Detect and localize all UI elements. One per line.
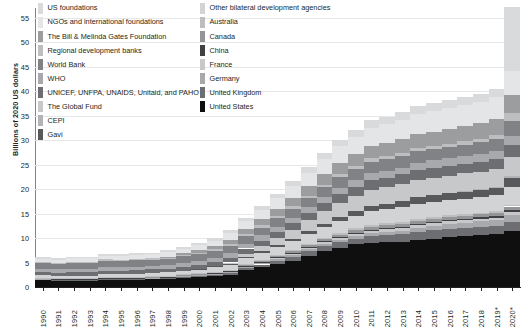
legend-label: WHO xyxy=(48,75,66,82)
chart-segment xyxy=(98,271,114,274)
legend-item[interactable]: CEPI xyxy=(38,114,188,128)
legend-item[interactable]: NGOs and international foundations xyxy=(38,15,188,29)
x-axis-tick-label: 1994 xyxy=(101,310,110,327)
chart-segment xyxy=(191,275,207,276)
chart-segment xyxy=(113,279,129,280)
chart-column[interactable] xyxy=(473,8,489,287)
x-axis-tick-mark xyxy=(356,287,357,291)
legend-item[interactable]: France xyxy=(200,57,400,71)
x-axis-tick-mark xyxy=(497,287,498,291)
chart-segment xyxy=(473,219,489,221)
chart-column[interactable] xyxy=(426,8,442,287)
chart-segment xyxy=(332,140,348,146)
y-axis-title: Billions of 2020 US dollars xyxy=(11,40,20,180)
chart-segment xyxy=(285,230,301,239)
chart-segment xyxy=(379,143,395,156)
chart-segment xyxy=(285,181,301,186)
legend-item[interactable]: Gavi xyxy=(38,128,188,142)
legend-item[interactable]: Canada xyxy=(200,29,400,43)
chart-segment xyxy=(129,279,145,280)
chart-segment xyxy=(285,255,301,257)
legend-item[interactable]: UNICEF, UNFPA, UNAIDS, Unitaid, and PAHO xyxy=(38,86,188,100)
chart-segment xyxy=(364,190,380,207)
chart-segment xyxy=(410,197,426,203)
chart-segment xyxy=(207,262,223,266)
chart-column[interactable] xyxy=(489,8,505,287)
chart-segment xyxy=(395,222,411,224)
x-axis-tick-label: 1990 xyxy=(39,310,48,327)
legend-item[interactable]: United Kingdom xyxy=(200,86,400,100)
chart-segment xyxy=(254,206,270,210)
chart-segment xyxy=(238,266,254,267)
legend-item[interactable]: The Global Fund xyxy=(38,100,188,114)
chart-segment xyxy=(223,263,239,264)
legend-item[interactable]: Regional development banks xyxy=(38,43,188,57)
chart-segment xyxy=(82,263,98,269)
chart-segment xyxy=(301,234,317,244)
legend-item[interactable]: Australia xyxy=(200,15,400,29)
legend-swatch-icon xyxy=(200,101,205,112)
y-axis-tick-label: 30 xyxy=(2,136,29,145)
chart-column[interactable] xyxy=(442,8,458,287)
chart-segment xyxy=(348,130,364,137)
chart-segment xyxy=(473,102,489,123)
legend-item[interactable]: Other bilateral development agencies xyxy=(200,1,400,15)
chart-segment xyxy=(364,162,380,174)
chart-segment xyxy=(410,228,426,232)
chart-segment xyxy=(317,224,333,227)
x-axis-tick-mark xyxy=(121,287,122,291)
chart-segment xyxy=(348,239,364,245)
chart-segment xyxy=(176,277,192,278)
chart-segment xyxy=(457,97,473,105)
chart-segment xyxy=(285,209,301,218)
legend-item[interactable]: China xyxy=(200,43,400,57)
legend-swatch-icon xyxy=(200,31,205,42)
chart-segment xyxy=(489,169,505,187)
x-axis-tick-mark xyxy=(403,287,404,291)
legend-swatch-icon xyxy=(38,45,43,56)
chart-segment xyxy=(176,275,192,276)
legend-item[interactable]: Germany xyxy=(200,71,400,85)
chart-segment xyxy=(301,198,317,207)
chart-segment xyxy=(285,253,301,255)
legend-item[interactable]: US foundations xyxy=(38,1,188,15)
y-axis-tick-label: 50 xyxy=(2,38,29,47)
x-axis-tick-label: 1992 xyxy=(70,310,79,327)
x-axis-tick-label: 2018 xyxy=(477,310,486,327)
x-axis-tick-label: 2009 xyxy=(336,310,345,327)
chart-segment xyxy=(489,211,505,213)
legend-item[interactable]: United States xyxy=(200,100,400,114)
chart-segment xyxy=(426,217,442,219)
chart-segment xyxy=(473,197,489,213)
chart-segment xyxy=(285,257,301,261)
chart-segment xyxy=(129,270,145,273)
chart-segment xyxy=(270,198,286,209)
chart-column[interactable] xyxy=(410,8,426,287)
chart-column[interactable] xyxy=(457,8,473,287)
chart-segment xyxy=(301,186,317,195)
legend-label: Germany xyxy=(210,75,240,82)
chart-column[interactable] xyxy=(504,8,520,287)
chart-segment xyxy=(238,236,254,243)
chart-segment xyxy=(223,230,239,233)
chart-segment xyxy=(317,159,333,174)
chart-segment xyxy=(317,239,333,241)
legend-swatch-icon xyxy=(38,87,43,98)
legend-item[interactable]: World Bank xyxy=(38,57,188,71)
chart-segment xyxy=(113,271,129,274)
chart-segment xyxy=(160,277,176,278)
x-axis-tick-label: 2010 xyxy=(352,310,361,327)
chart-segment xyxy=(504,207,520,210)
legend-item[interactable]: The Bill & Melinda Gates Foundation xyxy=(38,29,188,43)
chart-segment xyxy=(129,259,145,260)
chart-segment xyxy=(145,273,161,276)
chart-segment xyxy=(270,264,286,287)
x-axis-tick-mark xyxy=(418,287,419,291)
x-axis-tick-mark xyxy=(512,287,513,291)
chart-segment xyxy=(364,128,380,147)
chart-segment xyxy=(270,232,286,238)
chart-segment xyxy=(207,249,223,251)
chart-segment xyxy=(348,137,364,155)
chart-segment xyxy=(348,233,364,234)
legend-item[interactable]: WHO xyxy=(38,71,188,85)
